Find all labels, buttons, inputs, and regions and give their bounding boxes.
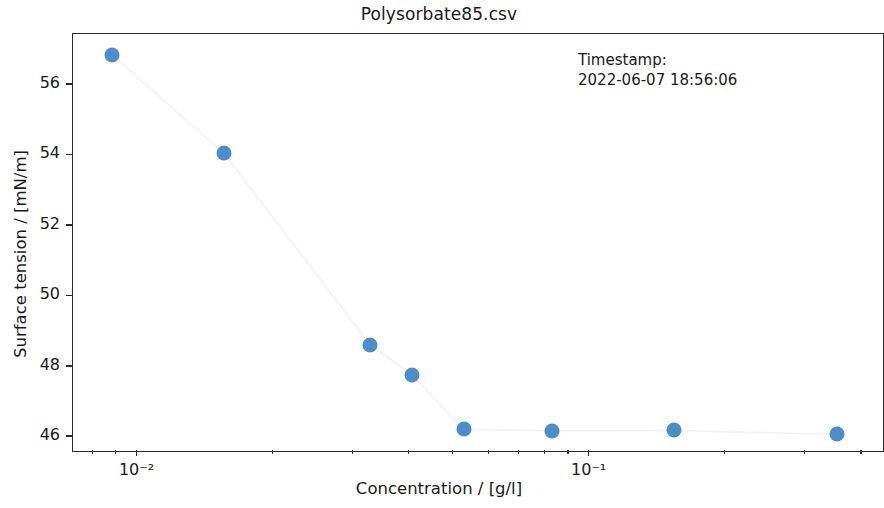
data-point-marker xyxy=(456,422,471,437)
x-axis-label: Concentration / [g/l] xyxy=(0,479,878,498)
y-tick-label: 56 xyxy=(0,73,60,92)
data-point-marker xyxy=(105,48,120,63)
x-tick-mark-minor xyxy=(408,450,409,454)
y-tick-mark xyxy=(66,83,72,85)
y-tick-label: 48 xyxy=(0,355,60,374)
data-point-marker xyxy=(216,146,231,161)
data-point-marker xyxy=(667,423,682,438)
x-tick-mark-minor xyxy=(488,450,489,454)
data-connecting-line xyxy=(73,34,883,451)
y-tick-mark xyxy=(66,295,72,297)
y-axis-label: Surface tension / [mN/m] xyxy=(11,150,30,358)
x-tick-mark-minor xyxy=(352,450,353,454)
x-tick-mark-minor xyxy=(544,450,545,454)
y-tick-label: 54 xyxy=(0,143,60,162)
plot-axes-frame xyxy=(72,33,884,452)
x-tick-mark-minor xyxy=(92,450,93,454)
x-tick-mark xyxy=(588,450,590,456)
x-tick-label: 10⁻² xyxy=(119,460,154,479)
y-tick-mark xyxy=(66,365,72,367)
x-tick-mark-minor xyxy=(724,450,725,454)
data-point-marker xyxy=(544,423,559,438)
y-tick-label: 52 xyxy=(0,214,60,233)
data-point-marker xyxy=(363,337,378,352)
timestamp-annotation: Timestamp: 2022-06-07 18:56:06 xyxy=(578,50,737,91)
y-tick-label: 46 xyxy=(0,425,60,444)
x-tick-mark-minor xyxy=(804,450,805,454)
x-tick-mark-minor xyxy=(567,450,568,454)
y-tick-mark xyxy=(66,435,72,437)
data-point-marker xyxy=(405,367,420,382)
y-tick-label: 50 xyxy=(0,284,60,303)
x-tick-label: 10⁻¹ xyxy=(571,460,606,479)
timestamp-value: 2022-06-07 18:56:06 xyxy=(578,70,737,90)
x-tick-mark-minor xyxy=(272,450,273,454)
chart-title: Polysorbate85.csv xyxy=(0,4,878,24)
x-tick-mark-minor xyxy=(518,450,519,454)
x-tick-mark-minor xyxy=(115,450,116,454)
plot-area xyxy=(73,34,883,451)
y-tick-mark xyxy=(66,154,72,156)
x-tick-mark-minor xyxy=(452,450,453,454)
timestamp-label: Timestamp: xyxy=(578,50,737,70)
x-tick-mark-minor xyxy=(860,450,861,454)
data-point-marker xyxy=(829,427,844,442)
x-tick-mark xyxy=(136,450,138,456)
y-tick-mark xyxy=(66,224,72,226)
